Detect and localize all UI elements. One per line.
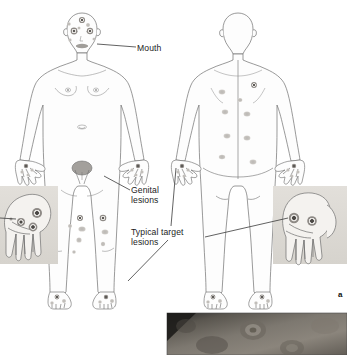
clinical-photograph — [167, 313, 347, 355]
erythema-multiforme-figure: Mouth Genital lesions Typical target les… — [0, 0, 347, 355]
anterior-right-hand — [119, 160, 149, 185]
figure-artwork — [0, 0, 347, 355]
anterior-feet — [48, 292, 116, 309]
hand-inset-right — [273, 186, 347, 265]
hand-inset-left — [0, 186, 58, 264]
label-genital-lesions: Genital lesions — [131, 185, 159, 205]
label-mouth: Mouth — [137, 43, 161, 53]
anterior-left-hand — [15, 160, 45, 185]
posterior-right-hand — [275, 160, 305, 185]
leader-mouth — [97, 44, 136, 47]
panel-letter: a — [338, 290, 342, 299]
posterior-feet — [204, 292, 272, 309]
label-typical-target-lesions: Typical target lesions — [131, 227, 184, 247]
